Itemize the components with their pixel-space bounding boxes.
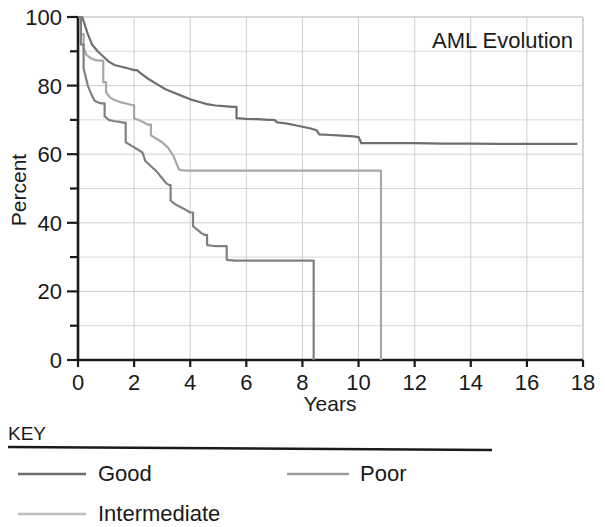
x-tick-label: 16 [515,370,539,395]
key-title: KEY [8,423,46,444]
x-axis-label: Years [304,392,357,415]
x-tick-label: 6 [240,370,252,395]
legend-label-intermediate: Intermediate [98,501,220,526]
y-tick-label: 100 [25,5,62,30]
chart-figure: 024681012141618 020406080100 AML Evoluti… [0,0,605,527]
x-tick-label: 12 [402,370,426,395]
x-tick-label: 2 [128,370,140,395]
y-tick-label: 60 [38,142,62,167]
legend-label-good: Good [98,461,152,486]
x-tick-label: 18 [571,370,595,395]
x-tick-label: 0 [72,370,84,395]
y-axis-label: Percent [7,154,30,227]
x-tick-label: 4 [184,370,196,395]
aml-evolution-survival-chart: 024681012141618 020406080100 AML Evoluti… [0,0,605,527]
chart-title: AML Evolution [432,28,573,53]
y-tick-label: 0 [50,348,62,373]
y-tick-label: 20 [38,279,62,304]
legend-label-poor: Poor [360,461,406,486]
y-tick-label: 40 [38,211,62,236]
y-tick-label: 80 [38,74,62,99]
x-tick-label: 14 [459,370,483,395]
